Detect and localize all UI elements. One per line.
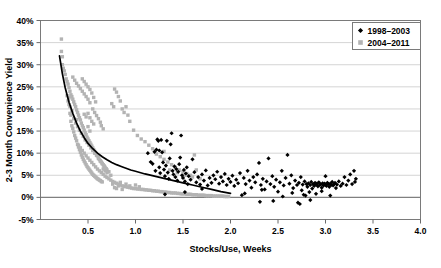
- x-tick-label: 2.0: [225, 226, 237, 236]
- x-tick-label: 0.5: [82, 226, 94, 236]
- legend-item-label: 2004–2011: [368, 38, 410, 48]
- convenience-yield-scatter-chart: 40%35%30%25%20%15%10%5%0%-5% 0.51.01.52.…: [0, 0, 441, 268]
- y-tick-label: 20%: [16, 104, 33, 114]
- y-tick-label: 30%: [16, 60, 33, 70]
- x-tick-label: 4.0: [415, 226, 427, 236]
- chart-canvas: 40%35%30%25%20%15%10%5%0%-5% 0.51.01.52.…: [0, 0, 441, 268]
- legend-item-label: 1998–2003: [368, 26, 411, 36]
- y-tick-label: 25%: [16, 82, 33, 92]
- chart-legend: 1998–20032004–2011: [353, 23, 421, 50]
- y-axis-title: 2-3 Month Convenience Yield: [4, 58, 14, 183]
- x-tick-label: 1.0: [130, 226, 142, 236]
- y-tick-label: 5%: [21, 170, 34, 180]
- x-tick-label: 3.0: [320, 226, 332, 236]
- x-tick-label: 3.5: [367, 226, 379, 236]
- y-tick-label: 10%: [16, 148, 33, 158]
- y-tick-label: 35%: [16, 38, 33, 48]
- y-tick-label: -5%: [18, 215, 34, 225]
- y-tick-label: 15%: [16, 126, 33, 136]
- x-axis-title: Stocks/Use, Weeks: [190, 244, 272, 254]
- y-tick-label: 0%: [21, 192, 34, 202]
- y-tick-label: 40%: [16, 16, 33, 26]
- x-tick-label: 2.5: [272, 226, 284, 236]
- x-tick-label: 1.5: [177, 226, 189, 236]
